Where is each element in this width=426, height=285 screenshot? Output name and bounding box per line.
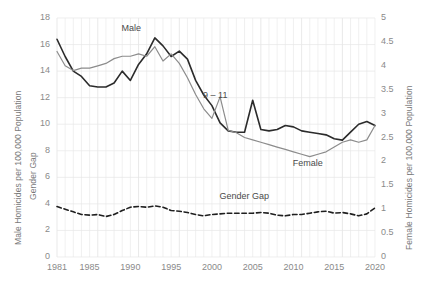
annotation-9-11: 9 – 11 (203, 90, 227, 100)
annotation-female: Female (293, 158, 323, 168)
series-line-male (57, 38, 375, 140)
annotation-gender-gap: Gender Gap (219, 191, 269, 201)
series-line-female (57, 47, 375, 157)
annotation-male: Male (122, 23, 142, 33)
series-line-gender-gap (57, 206, 375, 217)
plot-area (0, 0, 426, 285)
chart-container: Male Homicides per 100,000 Population Ge… (0, 0, 426, 285)
